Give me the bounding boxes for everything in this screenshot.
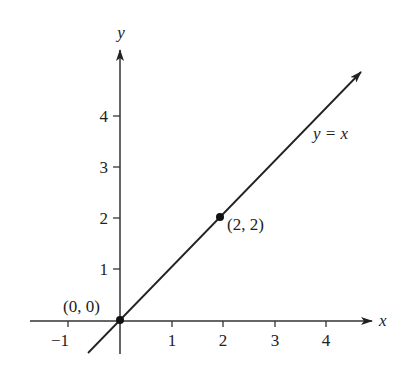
y-axis-label: y [115, 23, 125, 42]
x-ticks [68, 321, 326, 327]
y-tick-label: 2 [100, 209, 109, 228]
x-tick-label: 3 [271, 331, 280, 350]
line-y-equals-x [88, 72, 361, 353]
x-tick-label: 1 [168, 331, 177, 350]
x-axis-label: x [378, 311, 387, 330]
y-ticks [113, 116, 120, 269]
x-tick-label: −1 [51, 331, 69, 350]
line-label: y = x [311, 124, 349, 143]
y-tick-label: 1 [100, 260, 109, 279]
y-tick-label: 4 [100, 107, 109, 126]
point-origin [116, 316, 124, 324]
point-2-2-label: (2, 2) [227, 215, 264, 234]
x-tick-label: 4 [322, 331, 331, 350]
point-2-2 [216, 213, 224, 221]
y-tick-label: 3 [100, 158, 109, 177]
chart-canvas: −1 1 2 3 4 1 2 3 4 x y y = x (0, 0) (2, … [0, 0, 414, 366]
point-origin-label: (0, 0) [63, 297, 100, 316]
x-tick-label: 2 [219, 331, 228, 350]
